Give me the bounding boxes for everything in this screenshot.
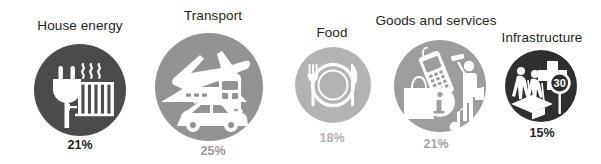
food-icon-group xyxy=(295,47,371,123)
goods-and-services-icon-group xyxy=(394,40,486,132)
emissions-category-infographic: House energy xyxy=(0,0,601,164)
plate-icon xyxy=(313,65,354,106)
speed-limit-value: 30 xyxy=(554,77,566,89)
category-icon-circle-transport xyxy=(155,33,263,141)
category-icon-circle-goods-and-services xyxy=(394,40,486,132)
category-label-infrastructure: Infrastructure xyxy=(483,30,601,45)
category-icon-circle-infrastructure: 30 xyxy=(505,50,577,122)
painter-icon xyxy=(451,54,484,121)
category-percent-goods-and-services: 21% xyxy=(372,137,500,151)
category-goods-and-services[interactable]: Goods and services xyxy=(372,0,500,164)
category-icon-circle-food xyxy=(295,47,371,123)
information-icon xyxy=(425,87,455,117)
category-house-energy[interactable]: House energy xyxy=(0,0,160,164)
heat-waves-icon xyxy=(82,64,100,78)
knife-icon xyxy=(351,64,357,107)
category-label-house-energy: House energy xyxy=(0,18,160,33)
category-icon-circle-house-energy xyxy=(34,44,126,136)
transport-icon-group xyxy=(155,33,263,141)
infrastructure-icon-group: 30 xyxy=(505,50,577,122)
category-percent-infrastructure: 15% xyxy=(483,126,601,140)
category-percent-transport: 25% xyxy=(142,144,284,158)
category-food[interactable]: Food 18% xyxy=(282,0,382,164)
house-energy-icon-group xyxy=(34,44,126,136)
category-percent-house-energy: 21% xyxy=(0,138,160,152)
category-label-transport: Transport xyxy=(142,8,284,23)
speed-limit-30-sign-icon: 30 xyxy=(549,72,571,114)
category-label-food: Food xyxy=(282,25,382,40)
category-transport[interactable]: Transport xyxy=(142,0,284,164)
category-label-goods-and-services: Goods and services xyxy=(372,13,500,28)
category-percent-food: 18% xyxy=(282,131,382,145)
power-plug-icon xyxy=(53,66,81,128)
category-infrastructure[interactable]: Infrastructure xyxy=(483,0,601,164)
graduation-cap-icon xyxy=(511,95,553,120)
